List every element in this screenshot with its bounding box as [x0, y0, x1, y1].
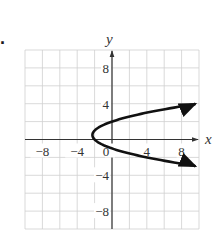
x-tick-label: 8 [178, 144, 185, 159]
y-tick-label: 8 [103, 61, 110, 76]
x-tick-label: −8 [35, 144, 49, 159]
axes [25, 51, 198, 229]
y-tick-label: −8 [95, 204, 109, 219]
y-axis-label: y [104, 31, 113, 47]
x-tick-label: −4 [70, 144, 84, 159]
parabola-chart: −8−404884−4−8 x y [0, 0, 220, 242]
y-tick-label: 4 [103, 97, 110, 112]
x-axis-label: x [204, 131, 212, 147]
y-tick-label: −4 [95, 168, 109, 183]
